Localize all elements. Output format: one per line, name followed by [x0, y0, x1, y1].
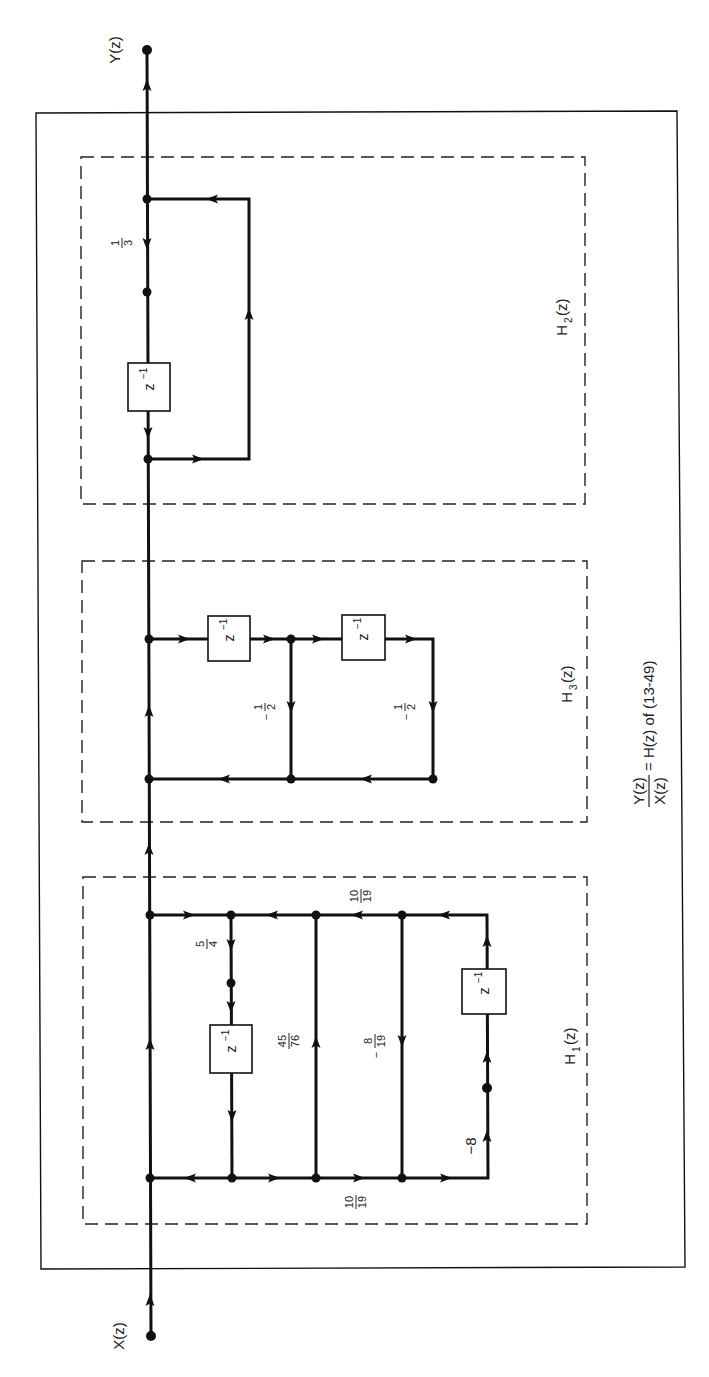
gain-five-fourths: 54	[194, 939, 219, 949]
equation-rhs: = H(z) of (13-49)	[640, 661, 657, 771]
svg-text:3: 3	[568, 684, 579, 690]
gain-45-76: 4576	[276, 1033, 301, 1049]
transfer-function-equation: Y(z) X(z) = H(z) of (13-49)	[630, 661, 668, 807]
svg-text:−: −	[370, 1052, 382, 1058]
gain-10-19-top: 1019	[348, 889, 373, 903]
gain-minus-8-19: −819	[362, 1034, 387, 1058]
svg-text:−: −	[260, 714, 272, 720]
z-inverse-label: z	[221, 635, 237, 642]
svg-text:2: 2	[265, 704, 277, 710]
h2-section-box	[81, 157, 585, 504]
h1-network	[146, 911, 507, 1183]
svg-text:−: −	[400, 714, 412, 720]
svg-text:−1: −1	[138, 367, 149, 379]
svg-text:H: H	[553, 325, 570, 336]
equation-numerator: Y(z)	[630, 777, 647, 805]
output-label: Y(z)	[106, 36, 123, 64]
z-inverse-label: z	[223, 1046, 239, 1053]
svg-text:−1: −1	[473, 971, 484, 983]
svg-text:45: 45	[276, 1035, 288, 1047]
svg-text:(z): (z)	[558, 666, 575, 684]
input-node	[146, 1331, 156, 1341]
svg-text:(z): (z)	[561, 1028, 578, 1046]
svg-text:2: 2	[405, 704, 417, 710]
gain-minus-8: −8	[462, 1137, 479, 1154]
h3-network	[145, 615, 438, 784]
gain-10-19-bottom: 1019	[343, 1195, 368, 1209]
svg-text:1: 1	[392, 704, 404, 710]
svg-text:10: 10	[348, 890, 360, 902]
svg-text:(z): (z)	[553, 299, 570, 317]
svg-text:19: 19	[361, 890, 373, 902]
svg-text:H: H	[561, 1054, 578, 1065]
input-label: X(z)	[110, 1322, 127, 1350]
svg-text:−1: −1	[352, 617, 363, 629]
svg-text:H: H	[558, 692, 575, 703]
svg-text:10: 10	[343, 1196, 355, 1208]
gain-minus-half-2: −12	[392, 703, 417, 720]
h3-label: H3(z)	[558, 666, 579, 703]
z-inverse-label: z	[141, 384, 157, 391]
h1-label: H1(z)	[561, 1028, 582, 1065]
h2-label: H2(z)	[553, 299, 574, 336]
svg-text:1: 1	[252, 704, 264, 710]
svg-text:76: 76	[289, 1035, 301, 1047]
h1-section-box	[83, 877, 587, 1224]
gain-minus-half-1: −12	[252, 703, 277, 720]
svg-text:8: 8	[362, 1038, 374, 1044]
equation-denominator: X(z)	[651, 777, 668, 805]
svg-text:1: 1	[109, 240, 121, 246]
output-node	[142, 45, 152, 55]
svg-text:1: 1	[571, 1046, 582, 1052]
z-inverse-label: z	[476, 988, 492, 995]
z-inverse-label: z	[355, 634, 371, 641]
svg-text:−1: −1	[220, 1029, 231, 1041]
svg-text:19: 19	[356, 1196, 368, 1208]
signal-flow-diagram: Y(z) X(z) z−1 z−1 z−1 z−1 z−1 H2(z) H3(z…	[0, 0, 709, 1377]
svg-text:4: 4	[207, 941, 219, 947]
svg-text:3: 3	[122, 240, 134, 246]
svg-text:5: 5	[194, 941, 206, 947]
svg-text:19: 19	[375, 1035, 387, 1047]
svg-text:−1: −1	[218, 618, 229, 630]
gain-one-third: 13	[109, 238, 134, 248]
svg-text:2: 2	[563, 317, 574, 323]
h3-section-box	[82, 561, 587, 822]
